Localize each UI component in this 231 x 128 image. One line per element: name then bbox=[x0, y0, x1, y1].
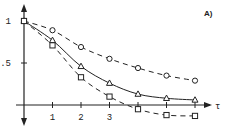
x-tick-label: 1 bbox=[50, 113, 55, 123]
y-axis-arrow-up bbox=[21, 4, 27, 12]
panel-label: A) bbox=[204, 9, 213, 18]
point-circles bbox=[135, 65, 140, 70]
point-triangles bbox=[50, 37, 56, 42]
point-squares bbox=[135, 107, 140, 112]
point-circles bbox=[164, 73, 169, 78]
chart: 123.51 τ A) bbox=[0, 0, 231, 128]
point-squares bbox=[192, 113, 197, 118]
x-tick-label: 2 bbox=[78, 113, 83, 123]
axes: 123.51 bbox=[0, 4, 212, 126]
point-circles bbox=[50, 28, 55, 33]
y-axis-arrow-down bbox=[21, 118, 27, 126]
y-tick-label: .5 bbox=[0, 59, 11, 69]
y-tick-label: 1 bbox=[6, 17, 11, 27]
point-circles bbox=[192, 78, 197, 83]
point-squares bbox=[164, 112, 169, 117]
point-squares bbox=[21, 18, 26, 23]
point-squares bbox=[50, 43, 55, 48]
x-tick-label: 3 bbox=[107, 113, 112, 123]
point-triangles bbox=[78, 63, 84, 68]
point-circles bbox=[107, 56, 112, 61]
x-axis-arrow bbox=[204, 102, 212, 108]
point-squares bbox=[78, 75, 83, 80]
series-line-squares bbox=[24, 21, 195, 116]
point-circles bbox=[78, 44, 83, 49]
point-squares bbox=[107, 94, 112, 99]
x-axis-label: τ bbox=[215, 102, 220, 112]
